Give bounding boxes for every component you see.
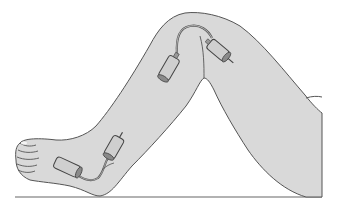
leg-sensor-illustration [0,0,344,211]
buttock-notch [306,96,322,98]
illustration-svg [0,0,344,211]
